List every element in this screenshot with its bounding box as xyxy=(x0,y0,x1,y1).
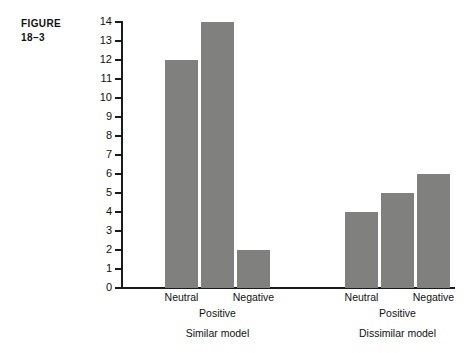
x-group-label: Similar model xyxy=(148,327,288,339)
x-category-label: Neutral xyxy=(322,291,402,303)
x-group-label: Dissimilar model xyxy=(328,327,467,339)
x-category-label: Positive xyxy=(358,307,438,319)
x-category-label: Negative xyxy=(214,291,294,303)
bar-chart: 01234567891011121314 NeutralPositiveNega… xyxy=(0,0,467,353)
bar xyxy=(165,60,198,288)
bar xyxy=(417,174,450,288)
bar xyxy=(237,250,270,288)
bar xyxy=(345,212,378,288)
x-category-label: Positive xyxy=(178,307,258,319)
x-category-label: Neutral xyxy=(142,291,222,303)
x-category-label: Negative xyxy=(394,291,467,303)
bar xyxy=(381,193,414,288)
bar xyxy=(201,22,234,288)
plot-bars xyxy=(0,0,467,288)
